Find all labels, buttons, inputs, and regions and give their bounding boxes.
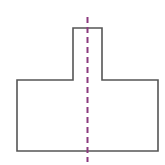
t-shape-figure [0,0,165,165]
diagram-canvas [0,0,165,165]
